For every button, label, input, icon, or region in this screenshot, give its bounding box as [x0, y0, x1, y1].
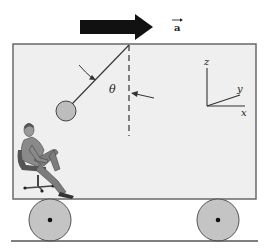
theta-label: θ	[109, 83, 116, 96]
accelerating-car-pendulum-diagram: a θ z y x	[0, 0, 264, 250]
x-axis-label: x	[241, 107, 247, 118]
svg-text:a: a	[174, 22, 181, 33]
y-axis-label: y	[236, 83, 243, 94]
pendulum-ball	[56, 101, 76, 121]
acceleration-arrow-icon	[80, 14, 153, 40]
left-wheel	[29, 199, 71, 241]
acceleration-label: a	[172, 18, 183, 33]
z-axis-label: z	[203, 56, 210, 67]
right-wheel	[197, 199, 239, 241]
